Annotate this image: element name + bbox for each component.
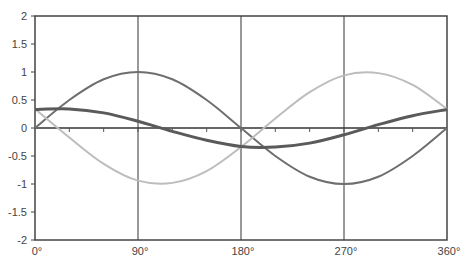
x-tick-label: 360°: [438, 245, 461, 257]
x-axis-labels: 0°90°180°270°360°: [32, 245, 461, 257]
y-tick-label: -1.5: [8, 206, 27, 218]
y-tick-label: 0: [21, 122, 27, 134]
x-tick-label: 90°: [132, 245, 149, 257]
y-axis-labels: 21.510.50-0.5-1-1.5-2: [8, 10, 27, 246]
y-tick-label: 1: [21, 66, 27, 78]
y-tick-label: 1.5: [12, 38, 27, 50]
y-tick-label: -0.5: [8, 150, 27, 162]
x-tick-label: 180°: [232, 245, 255, 257]
y-tick-label: -1: [17, 178, 27, 190]
y-tick-label: 0.5: [12, 94, 27, 106]
x-tick-label: 270°: [335, 245, 358, 257]
y-tick-label: 2: [21, 10, 27, 22]
axes: [31, 16, 447, 240]
line-chart: 21.510.50-0.5-1-1.5-2 0°90°180°270°360°: [0, 0, 470, 271]
y-tick-label: -2: [17, 234, 27, 246]
x-tick-label: 0°: [32, 245, 43, 257]
